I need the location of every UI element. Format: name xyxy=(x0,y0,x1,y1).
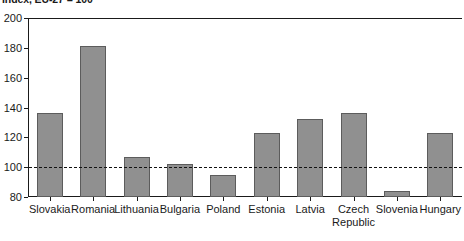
x-axis-tick xyxy=(440,197,441,201)
y-axis-tick xyxy=(24,78,28,79)
bar xyxy=(124,157,150,197)
bar xyxy=(427,133,453,197)
y-axis-tick-label: 160 xyxy=(4,72,22,83)
y-axis-line xyxy=(28,18,29,197)
reference-line xyxy=(29,167,462,168)
y-axis-tick xyxy=(24,197,28,198)
x-axis-category-label: Slovenia xyxy=(376,203,418,216)
x-axis-tick xyxy=(397,197,398,201)
bar xyxy=(210,175,236,197)
y-axis-tick-label: 120 xyxy=(4,132,22,143)
y-axis-tick-label: 200 xyxy=(4,13,22,24)
x-axis-tick xyxy=(50,197,51,201)
bar-chart: Index, EU-27 = 100 80100120140160180200 … xyxy=(0,0,464,241)
bar xyxy=(341,113,367,197)
bar xyxy=(80,46,106,197)
bar xyxy=(297,119,323,197)
y-axis-tick-label: 140 xyxy=(4,102,22,113)
y-axis-tick-label: 100 xyxy=(4,162,22,173)
top-axis-line xyxy=(28,18,462,19)
x-axis-tick xyxy=(310,197,311,201)
x-axis-tick xyxy=(354,197,355,201)
x-axis-tick xyxy=(223,197,224,201)
y-axis-tick xyxy=(24,108,28,109)
x-axis-category-label: Bulgaria xyxy=(160,203,200,216)
y-axis-tick xyxy=(24,137,28,138)
x-axis-category-label: Poland xyxy=(206,203,240,216)
x-axis-category-label: Estonia xyxy=(248,203,285,216)
x-axis-tick xyxy=(180,197,181,201)
x-axis-category-label: Slovakia xyxy=(29,203,71,216)
y-axis-tick-label: 180 xyxy=(4,42,22,53)
bar xyxy=(37,113,63,197)
bar xyxy=(254,133,280,197)
x-axis-category-label: Romania xyxy=(71,203,115,216)
x-axis-tick xyxy=(137,197,138,201)
x-axis-tick xyxy=(93,197,94,201)
x-axis-tick xyxy=(267,197,268,201)
bar xyxy=(167,164,193,197)
x-axis-category-label: Czech Republic xyxy=(332,203,375,228)
x-axis-category-label: Lithuania xyxy=(114,203,159,216)
x-axis-category-label: Hungary xyxy=(420,203,462,216)
plot-area: 80100120140160180200 xyxy=(28,18,462,197)
y-axis-tick xyxy=(24,48,28,49)
chart-subtitle: Index, EU-27 = 100 xyxy=(2,0,93,5)
y-axis-tick xyxy=(24,18,28,19)
y-axis-tick xyxy=(24,167,28,168)
y-axis-tick-label: 80 xyxy=(10,192,22,203)
x-axis-category-label: Latvia xyxy=(295,203,324,216)
